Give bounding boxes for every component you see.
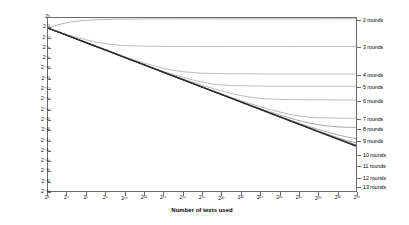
y-tick-mark (47, 17, 51, 18)
series-label: 4 rounds (363, 72, 383, 78)
series-line (48, 19, 356, 28)
y-tick-label: 2⁻⁶ (6, 45, 50, 51)
series-tick-mark (357, 87, 361, 88)
series-tick-mark (357, 141, 361, 142)
x-tick-mark (202, 192, 203, 196)
x-tick-mark (280, 192, 281, 196)
y-tick-mark (47, 48, 51, 49)
series-label: 11 rounds (363, 163, 386, 169)
series-label: 7 rounds (363, 116, 383, 122)
series-tick-mark (357, 119, 361, 120)
series-line (48, 28, 356, 46)
y-tick-mark (47, 110, 51, 111)
y-tick-mark (47, 27, 51, 28)
series-tick-mark (357, 47, 361, 48)
y-tick-mark (47, 171, 51, 172)
y-tick-mark (47, 130, 51, 131)
y-tick-label: 2⁻² (6, 24, 50, 30)
y-tick-label: 2⁻⁴ (6, 35, 50, 41)
series-tick-mark (357, 178, 361, 179)
plot-area (47, 17, 357, 192)
x-tick-mark (318, 192, 319, 196)
series-label: 5 rounds (363, 84, 383, 90)
series-label: 6 rounds (363, 98, 383, 104)
y-tick-mark (47, 161, 51, 162)
series-label: 12 rounds (363, 175, 386, 181)
y-tick-mark (47, 58, 51, 59)
series-label: 2 rounds (363, 17, 383, 23)
series-tick-mark (357, 155, 361, 156)
series-line (48, 28, 356, 86)
series-tick-mark (357, 20, 361, 21)
series-line (48, 28, 356, 146)
x-tick-mark (66, 192, 67, 196)
series-line (48, 28, 356, 100)
y-tick-mark (47, 141, 51, 142)
x-axis-title: Number of texts used (47, 207, 357, 213)
y-tick-label: 2⁰ (6, 14, 50, 20)
series-tick-mark (357, 129, 361, 130)
x-tick-mark (260, 192, 261, 196)
y-tick-mark (47, 68, 51, 69)
x-tick-mark (47, 192, 48, 196)
y-tick-label: 2⁻²⁸ (6, 158, 50, 164)
y-tick-mark (47, 182, 51, 183)
y-tick-label: 2⁻²² (6, 127, 50, 133)
y-tick-label: 2⁻²⁰ (6, 117, 50, 123)
chart-figure: Squared distance between output and unif… (0, 0, 409, 225)
y-tick-label: 2⁻¹⁰ (6, 65, 50, 71)
series-label: 9 rounds (363, 138, 383, 144)
series-label: 3 rounds (363, 44, 383, 50)
x-tick-mark (357, 192, 358, 196)
series-line (48, 28, 356, 138)
y-tick-label: 2⁻¹² (6, 76, 50, 82)
series-tick-mark (357, 187, 361, 188)
series-label: 8 rounds (363, 126, 383, 132)
series-curves (48, 19, 356, 146)
y-tick-mark (47, 151, 51, 152)
y-tick-mark (47, 38, 51, 39)
y-tick-label: 2⁻¹⁴ (6, 86, 50, 92)
x-tick-mark (144, 192, 145, 196)
y-tick-label: 2⁻³² (6, 179, 50, 185)
x-tick-mark (163, 192, 164, 196)
series-tick-mark (357, 166, 361, 167)
y-tick-label: 2⁻²⁴ (6, 138, 50, 144)
y-tick-label: 2⁻¹⁸ (6, 107, 50, 113)
y-tick-mark (47, 89, 51, 90)
series-label: 13 rounds (363, 184, 386, 190)
series-tick-mark (357, 75, 361, 76)
y-tick-label: 2⁻³⁰ (6, 168, 50, 174)
y-tick-label: 2⁻¹⁶ (6, 96, 50, 102)
x-tick-mark (338, 192, 339, 196)
series-label: 10 rounds (363, 152, 386, 158)
plot-svg (48, 18, 356, 191)
x-tick-mark (183, 192, 184, 196)
x-tick-mark (125, 192, 126, 196)
y-tick-label: 2⁻²⁶ (6, 148, 50, 154)
y-tick-mark (47, 79, 51, 80)
y-tick-mark (47, 99, 51, 100)
x-tick-mark (105, 192, 106, 196)
x-tick-mark (86, 192, 87, 196)
series-line (48, 28, 356, 127)
x-tick-mark (299, 192, 300, 196)
x-tick-mark (221, 192, 222, 196)
series-tick-mark (357, 101, 361, 102)
y-tick-label: 2⁻⁸ (6, 55, 50, 61)
y-tick-mark (47, 120, 51, 121)
series-line (48, 28, 356, 74)
x-tick-mark (241, 192, 242, 196)
